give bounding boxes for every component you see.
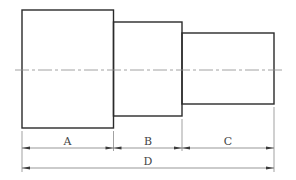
shaft-section-a — [22, 10, 114, 128]
arrowhead-a-right — [106, 147, 114, 150]
arrowhead-c-left — [182, 147, 190, 150]
dimension-label-d: D — [144, 155, 153, 168]
arrowhead-a-left — [22, 147, 30, 150]
arrowhead-d-right — [266, 167, 274, 170]
dimension-label-c: C — [224, 135, 232, 148]
stepped-shaft-drawing: A B C D — [0, 0, 296, 180]
dimension-label-b: B — [144, 135, 152, 148]
arrowhead-b-right — [174, 147, 182, 150]
shaft-section-c — [182, 33, 274, 104]
arrowhead-b-left — [114, 147, 122, 150]
shaft-section-b — [114, 22, 183, 116]
dimension-label-a: A — [63, 135, 73, 148]
arrowhead-d-left — [22, 167, 30, 170]
arrowhead-c-right — [266, 147, 274, 150]
